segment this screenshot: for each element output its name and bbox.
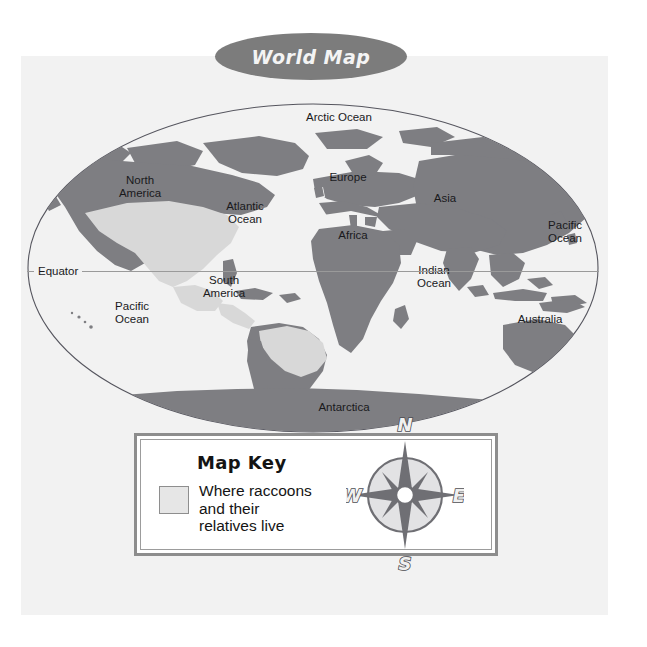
compass-label-west: W — [346, 485, 363, 506]
map-label-north-america: North America — [100, 174, 180, 199]
map-label-arctic-ocean: Arctic Ocean — [293, 111, 385, 124]
world-globe-map: Arctic Ocean North America Atlantic Ocea… — [27, 103, 599, 433]
compass-label-north: N — [397, 415, 412, 435]
map-label-australia: Australia — [501, 313, 579, 326]
map-label-antarctica: Antarctica — [303, 401, 385, 414]
equator-label: Equator — [34, 265, 82, 277]
world-map-page: Arctic Ocean North America Atlantic Ocea… — [0, 0, 647, 647]
map-label-africa: Africa — [318, 229, 388, 242]
compass-label-east: E — [453, 485, 464, 506]
map-label-europe: Europe — [312, 171, 384, 184]
title-banner: World Map — [215, 33, 407, 80]
equator-line — [27, 271, 599, 272]
compass-label-south: S — [399, 553, 412, 574]
map-key-swatch — [159, 486, 189, 514]
map-label-pacific-ocean-east: Pacific Ocean — [525, 219, 605, 244]
page-title: World Map — [252, 46, 371, 68]
map-label-asia: Asia — [412, 192, 478, 205]
map-label-indian-ocean: Indian Ocean — [395, 264, 473, 289]
map-key-legend-label: Where raccoons and their relatives live — [199, 482, 312, 535]
compass-rose: N S E W — [346, 415, 464, 575]
map-key-title: Map Key — [197, 452, 287, 473]
map-label-south-america: South America — [184, 274, 264, 299]
map-label-pacific-ocean-west: Pacific Ocean — [93, 300, 171, 325]
map-label-atlantic-ocean: Atlantic Ocean — [205, 200, 285, 225]
